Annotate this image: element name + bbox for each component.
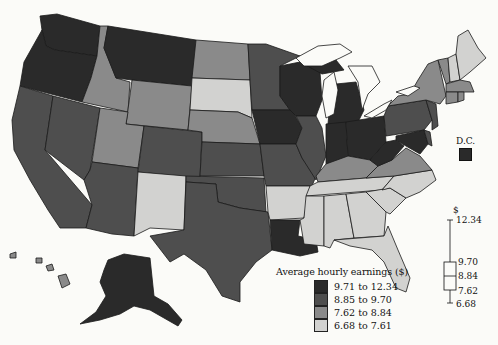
boxplot-unit: $ bbox=[453, 205, 459, 215]
state-ND bbox=[192, 40, 250, 80]
state-CO bbox=[138, 126, 202, 178]
boxplot-median: 8.84 bbox=[458, 271, 478, 281]
legend: Average hourly earnings ($) 9.71 to 12.3… bbox=[276, 266, 406, 332]
legend-label: 7.62 to 8.84 bbox=[334, 307, 392, 318]
state-CT bbox=[446, 92, 458, 104]
state-HI bbox=[10, 252, 70, 288]
state-NY bbox=[388, 60, 446, 106]
legend-label: 8.85 to 9.70 bbox=[334, 294, 392, 305]
state-ME bbox=[456, 30, 486, 80]
boxplot-min: 6.68 bbox=[456, 299, 476, 309]
us-choropleth-map bbox=[0, 0, 498, 345]
legend-item: 7.62 to 8.84 bbox=[314, 306, 406, 319]
boxplot-q1: 7.62 bbox=[458, 286, 478, 296]
state-RI bbox=[458, 92, 464, 102]
boxplot-max: 12.34 bbox=[456, 215, 482, 225]
state-KS bbox=[200, 142, 264, 176]
legend-item: 8.85 to 9.70 bbox=[314, 293, 406, 306]
state-AR bbox=[266, 186, 310, 220]
legend-swatch bbox=[314, 306, 328, 319]
legend-label: 6.68 to 7.61 bbox=[334, 320, 392, 331]
legend-swatch bbox=[314, 280, 328, 293]
lake-superior bbox=[296, 44, 352, 66]
dc-swatch bbox=[459, 148, 472, 161]
state-NM bbox=[134, 172, 186, 236]
state-WY bbox=[126, 80, 192, 130]
legend-item: 9.71 to 12.34 bbox=[314, 280, 406, 293]
state-AK bbox=[80, 254, 182, 326]
legend-swatch bbox=[314, 319, 328, 332]
dc-label: D.C. bbox=[456, 136, 475, 146]
legend-item: 6.68 to 7.61 bbox=[314, 319, 406, 332]
legend-swatch bbox=[314, 293, 328, 306]
state-MT bbox=[104, 26, 196, 86]
boxplot bbox=[444, 220, 456, 303]
legend-label: 9.71 to 12.34 bbox=[334, 281, 398, 292]
legend-title: Average hourly earnings ($) bbox=[276, 266, 406, 277]
state-AZ bbox=[84, 162, 138, 236]
state-IA bbox=[252, 110, 302, 144]
boxplot-q3: 9.70 bbox=[458, 257, 478, 267]
